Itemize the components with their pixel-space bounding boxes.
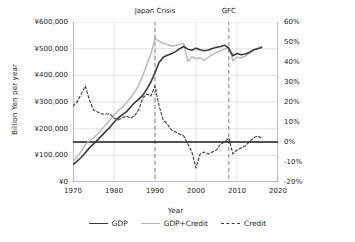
event-label: GFC xyxy=(194,7,264,15)
x-tick-label: 1980 xyxy=(94,187,134,195)
y-left-tick-label: ¥200,000 xyxy=(22,125,68,133)
y-left-tick-label: ¥600,000 xyxy=(22,18,68,26)
y-right-tick-label: 0% xyxy=(284,138,330,146)
chart-figure: Billion Yen per year Percent of GDP per … xyxy=(0,0,355,242)
y-left-tick-label: ¥300,000 xyxy=(22,98,68,106)
y-right-tick-label: 40% xyxy=(284,58,330,66)
legend-item-gdp-credit[interactable]: GDP+Credit xyxy=(141,219,208,228)
legend-label: GDP+Credit xyxy=(164,219,208,228)
legend-label: Credit xyxy=(244,219,266,228)
series-line-gdp-credit xyxy=(73,39,262,162)
x-tick-label: 1990 xyxy=(135,187,175,195)
chart-canvas xyxy=(73,22,278,182)
y-right-tick-label: -10% xyxy=(284,158,330,166)
y-right-tick-label: 50% xyxy=(284,38,330,46)
y-left-tick-label: ¥500,000 xyxy=(22,45,68,53)
x-axis-title: Year xyxy=(73,206,278,215)
y-left-tick-label: ¥0 xyxy=(22,178,68,186)
solid-line-swatch xyxy=(89,220,108,227)
legend-item-credit[interactable]: Credit xyxy=(221,219,266,228)
plot-area xyxy=(73,22,278,182)
legend-label: GDP xyxy=(112,219,128,228)
solid-line-swatch xyxy=(141,220,160,227)
x-tick-label: 2010 xyxy=(217,187,257,195)
chart-legend: GDPGDP+CreditCredit xyxy=(0,219,355,228)
y-right-tick-label: 10% xyxy=(284,118,330,126)
y-left-tick-label: ¥100,000 xyxy=(22,151,68,159)
y-axis-left-title: Billion Yen per year xyxy=(10,55,19,145)
y-right-tick-label: -20% xyxy=(284,178,330,186)
x-tick-label: 2000 xyxy=(176,187,216,195)
x-tick-label: 1970 xyxy=(53,187,93,195)
event-label: Japan Crisis xyxy=(120,7,190,15)
series-line-gdp xyxy=(73,45,262,164)
legend-item-gdp[interactable]: GDP xyxy=(89,219,128,228)
y-right-tick-label: 60% xyxy=(284,18,330,26)
x-tick-label: 2020 xyxy=(258,187,298,195)
series-line-credit xyxy=(73,86,262,168)
y-right-tick-label: 20% xyxy=(284,98,330,106)
y-left-tick-label: ¥400,000 xyxy=(22,71,68,79)
dashed-line-swatch xyxy=(221,220,240,227)
y-right-tick-label: 30% xyxy=(284,78,330,86)
